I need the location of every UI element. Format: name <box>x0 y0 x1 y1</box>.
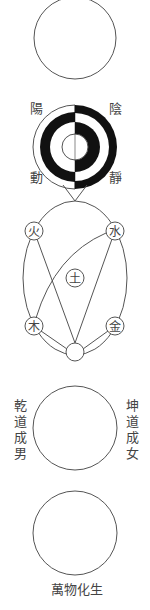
convergence-node-circle <box>66 343 84 361</box>
qian-label: 乾道成男 <box>13 398 27 462</box>
phase-lines <box>36 233 112 349</box>
earth-label: 土 <box>69 272 81 286</box>
yang-label: 陽 <box>30 101 43 116</box>
wanwu-circle <box>33 491 117 575</box>
fire-label: 火 <box>28 225 40 239</box>
yin-label: 陰 <box>109 101 122 116</box>
yinyang-circle <box>33 105 117 189</box>
kun-label: 坤道成女 <box>125 398 139 462</box>
wanwu-label: 萬物化生 <box>51 582 103 597</box>
stillness-label: 靜 <box>109 170 122 185</box>
taijitu-diagram: 火 水 土 木 金 陽 陰 動 靜 萬物化生 <box>0 0 150 610</box>
water-label: 水 <box>109 225 121 239</box>
wuji-circle <box>34 0 116 79</box>
wood-label: 木 <box>28 320 40 334</box>
metal-label: 金 <box>109 319 121 334</box>
qiankun-circle <box>33 386 117 470</box>
movement-label: 動 <box>30 170 43 185</box>
